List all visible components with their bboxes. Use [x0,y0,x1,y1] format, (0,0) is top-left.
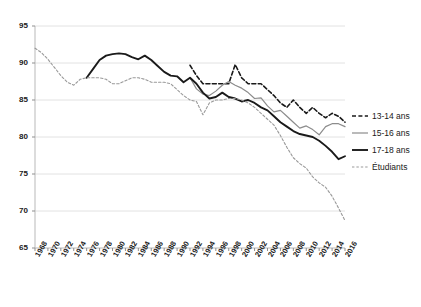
legend-label: Étudiants [372,162,407,172]
dashed-line-key [352,111,368,121]
legend-item[interactable]: 17-18 ans [352,141,410,158]
dotted-gray-line-key [352,162,368,172]
y-tick-label: 80 [6,132,28,141]
thick-black-line-key [352,145,368,155]
y-tick-label: 90 [6,58,28,67]
legend-label: 17-18 ans [372,145,410,155]
series-line-2 [87,53,345,159]
line-chart: 65707580859095 1968197019721974197619781… [0,0,421,307]
legend-item[interactable]: Étudiants [352,158,410,175]
y-tick-label: 65 [6,243,28,252]
series-lines [35,48,345,220]
legend-label: 15-16 ans [372,128,410,138]
legend: 13-14 ans15-16 ans17-18 ansÉtudiants [352,107,410,175]
gridlines [35,26,345,211]
legend-item[interactable]: 15-16 ans [352,124,410,141]
y-tick-label: 70 [6,206,28,215]
axis-lines [32,26,345,251]
thin-gray-line-key [352,128,368,138]
legend-label: 13-14 ans [372,111,410,121]
series-line-1 [190,78,345,135]
y-tick-label: 75 [6,169,28,178]
legend-item[interactable]: 13-14 ans [352,107,410,124]
y-tick-label: 85 [6,95,28,104]
y-tick-label: 95 [6,21,28,30]
